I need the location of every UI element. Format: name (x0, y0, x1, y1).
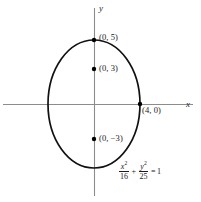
fraction-denominator-25: 25 (138, 172, 149, 180)
point-label-0-5: (0, 5) (99, 32, 118, 42)
y-axis-label: y (99, 3, 103, 13)
graph-canvas (0, 0, 201, 202)
equals-operator: = (151, 167, 156, 176)
point-dot-0-5 (92, 38, 96, 42)
point-dot-0-3 (92, 67, 96, 71)
point-label-4-0: (4, 0) (142, 105, 161, 115)
point-label-0-neg3: (0, −3) (99, 133, 123, 143)
ellipse-figure: y x (0, 5) (0, 3) (0, −3) (4, 0) x2 16 +… (0, 0, 201, 202)
ellipse-equation: x2 16 + y2 25 = 1 (118, 163, 161, 181)
x-axis-label: x (186, 99, 190, 109)
exponent-two-x: 2 (124, 160, 127, 166)
fraction-denominator-16: 16 (119, 172, 130, 180)
point-dot-0-neg3 (92, 137, 96, 141)
fraction-y-squared-over-25: y2 25 (138, 163, 149, 181)
equation-right-hand-side: 1 (157, 167, 161, 176)
exponent-two-y: 2 (144, 160, 147, 166)
fraction-x-squared-over-16: x2 16 (119, 163, 130, 181)
point-label-0-3: (0, 3) (99, 63, 118, 73)
plus-operator: + (132, 167, 137, 176)
